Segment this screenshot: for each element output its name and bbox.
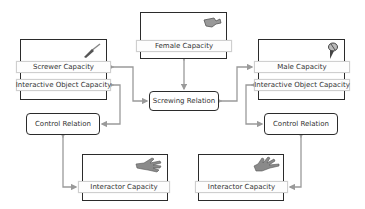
- control-relation-left-node[interactable]: Control Relation: [26, 113, 100, 135]
- screwdriver-icon: [82, 42, 102, 58]
- screw-icon: [325, 42, 339, 60]
- screwer-capacity-label: Screwer Capacity: [16, 61, 111, 73]
- female-capacity-label: Female Capacity: [136, 40, 232, 52]
- male-interactive-object-capacity-label: Interactive Object Capacity: [254, 79, 350, 91]
- interactor-capacity-right-label: Interactor Capacity: [195, 181, 288, 193]
- screwer-interactive-object-capacity-label: Interactive Object Capacity: [16, 79, 111, 91]
- hand-icon: [134, 156, 164, 174]
- interactor-capacity-left-label: Interactor Capacity: [78, 181, 170, 193]
- male-capacity-label: Male Capacity: [254, 61, 350, 73]
- screwing-relation-node[interactable]: Screwing Relation: [149, 91, 219, 111]
- hand-icon: [252, 156, 282, 174]
- control-relation-right-node[interactable]: Control Relation: [264, 113, 338, 135]
- screw-head-icon: [202, 15, 222, 29]
